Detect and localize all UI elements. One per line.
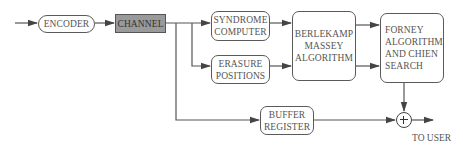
buffer-register-label: BUFFER REGISTER	[264, 109, 310, 133]
erasure-positions-block: ERASURE POSITIONS	[211, 55, 270, 84]
encoder-block: ENCODER	[38, 15, 95, 33]
to-user-label: TO USER	[412, 133, 451, 143]
buffer-register-block: BUFFER REGISTER	[260, 106, 314, 135]
forney-chien-block: FORNEY ALGORITHM AND CHIEN SEARCH	[380, 13, 444, 83]
forney-chien-label: FORNEY ALGORITHM AND CHIEN SEARCH	[385, 24, 443, 72]
syndrome-computer-label: SYNDROME COMPUTER	[213, 14, 267, 38]
berlekamp-massey-block: BERLEKAMP MASSEY ALGORITHM	[292, 11, 356, 81]
channel-label: CHANNEL	[117, 18, 163, 30]
channel-block: CHANNEL	[115, 14, 166, 33]
encoder-label: ENCODER	[44, 18, 90, 30]
erasure-positions-label: ERASURE POSITIONS	[216, 58, 265, 82]
syndrome-computer-block: SYNDROME COMPUTER	[211, 11, 270, 41]
summing-junction-icon	[396, 112, 412, 128]
berlekamp-massey-label: BERLEKAMP MASSEY ALGORITHM	[295, 28, 353, 64]
